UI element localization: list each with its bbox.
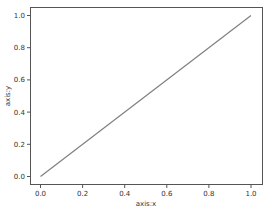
y-tick-label: 0.8: [14, 44, 25, 52]
y-tick-label: 0.0: [14, 173, 25, 181]
x-tick-label: 0.2: [77, 190, 88, 198]
x-tick-label: 1.0: [245, 190, 256, 198]
y-axis-label: axis:y: [4, 86, 12, 107]
data-series-line: [41, 16, 252, 177]
y-tick-label: 0.6: [14, 76, 26, 84]
x-axis: 0.0 0.2 0.4 0.6 0.8 1.0: [35, 185, 257, 199]
x-axis-label: axis:x: [136, 200, 157, 208]
x-tick-label: 0.6: [161, 190, 173, 198]
y-tick-label: 0.4: [14, 109, 26, 117]
x-tick-label: 0.8: [203, 190, 214, 198]
x-tick-label: 0.0: [35, 190, 46, 198]
y-tick-label: 1.0: [14, 12, 25, 20]
x-tick-label: 0.4: [119, 190, 131, 198]
y-tick-label: 0.2: [14, 141, 25, 149]
line-chart: 0.0 0.2 0.4 0.6 0.8 1.0 0.0 0.2 0.4 0.6 …: [0, 0, 268, 214]
y-axis: 0.0 0.2 0.4 0.6 0.8 1.0: [14, 12, 31, 181]
